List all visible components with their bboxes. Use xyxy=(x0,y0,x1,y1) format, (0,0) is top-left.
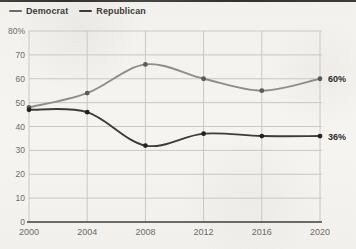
y-tick-label: 70 xyxy=(16,50,26,60)
legend-item-republican: Republican xyxy=(79,6,146,16)
democrat-line-swatch-icon xyxy=(9,10,22,12)
line-chart: 80%7060504030201002000200420082012201620… xyxy=(0,0,356,249)
legend-label-republican: Republican xyxy=(96,6,146,16)
y-tick-label: 10 xyxy=(16,193,26,203)
chart-legend: Democrat Republican xyxy=(9,6,146,16)
x-tick-label: 2008 xyxy=(135,227,155,237)
y-tick-label: 0 xyxy=(20,217,25,227)
data-point-republican xyxy=(85,110,90,115)
data-point-democrat xyxy=(143,62,148,67)
data-point-democrat xyxy=(85,91,90,96)
legend-item-democrat: Democrat xyxy=(9,6,68,16)
y-tick-label: 60 xyxy=(16,74,26,84)
x-tick-label: 2020 xyxy=(310,227,330,237)
data-point-democrat xyxy=(201,76,206,81)
x-tick-label: 2000 xyxy=(19,227,39,237)
y-tick-label: 40 xyxy=(16,122,26,132)
legend-label-democrat: Democrat xyxy=(26,6,68,16)
data-point-republican xyxy=(143,143,148,148)
x-tick-label: 2004 xyxy=(77,227,97,237)
data-point-democrat xyxy=(318,76,323,81)
data-point-democrat xyxy=(259,88,264,93)
y-tick-label: 20 xyxy=(16,169,26,179)
series-line-republican xyxy=(29,109,320,146)
x-tick-label: 2012 xyxy=(194,227,214,237)
end-label-democrat: 60% xyxy=(328,74,346,84)
end-label-republican: 36% xyxy=(328,132,346,142)
y-tick-label: 50 xyxy=(16,98,26,108)
data-point-republican xyxy=(27,107,32,112)
y-tick-label: 80% xyxy=(8,26,25,36)
series-line-democrat xyxy=(29,64,320,107)
data-point-republican xyxy=(318,134,323,139)
data-point-republican xyxy=(201,131,206,136)
republican-line-swatch-icon xyxy=(79,10,92,12)
page-top-edge xyxy=(0,0,356,2)
y-tick-label: 30 xyxy=(16,145,26,155)
chart-screenshot: Democrat Republican 80%70605040302010020… xyxy=(0,0,356,249)
x-tick-label: 2016 xyxy=(252,227,272,237)
data-point-republican xyxy=(259,134,264,139)
